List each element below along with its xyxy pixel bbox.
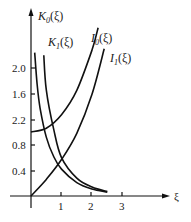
- curve-i1: [31, 49, 104, 196]
- y-tick-1.6: 1.6: [12, 88, 26, 100]
- x-axis-label: ξ: [174, 190, 179, 203]
- label-i1: I1(ξ): [109, 51, 131, 67]
- x-tick-3: 3: [119, 200, 125, 212]
- y-tick-0.8: 0.8: [12, 139, 26, 151]
- label-k1: K1(ξ): [47, 35, 73, 51]
- bessel-chart: ξ 1 2 3 0.4 0.8 2.2 1.6 2.0 K0(ξ) K1(ξ) …: [0, 0, 191, 222]
- y-tick-1.2: 2.2: [12, 114, 26, 126]
- x-tick-1: 1: [58, 200, 64, 212]
- y-tick-0.4: 0.4: [12, 165, 26, 177]
- x-tick-2: 2: [88, 200, 94, 212]
- label-i0: I0(ξ): [90, 31, 112, 47]
- label-k0: K0(ξ): [37, 9, 63, 25]
- y-axis-arrow-icon: [29, 8, 34, 16]
- y-tick-2.0: 2.0: [12, 62, 26, 74]
- x-ticks: 1 2 3: [58, 192, 125, 212]
- x-axis-arrow-icon: [162, 194, 170, 199]
